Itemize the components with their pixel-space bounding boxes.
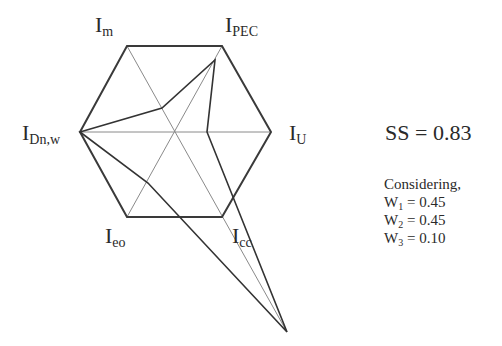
axis-label-ipec: IPEC (225, 14, 258, 36)
weight-w1: W1 = 0.45 (384, 193, 461, 211)
axis-label-icc: Icc (232, 225, 252, 247)
ss-result: SS = 0.83 (385, 120, 471, 146)
weight-w2: W2 = 0.45 (384, 211, 461, 229)
weight-w3: W3 = 0.10 (384, 229, 461, 247)
data-polygon (80, 60, 287, 332)
axis-im-icc (127, 46, 287, 332)
weights-block: Considering, W1 = 0.45 W2 = 0.45 W3 = 0.… (384, 175, 461, 247)
hexagon-radar-diagram (0, 0, 502, 346)
axis-label-ieo: Ieo (105, 225, 126, 247)
axis-label-idnw: IDn,w (22, 122, 60, 144)
considering-title: Considering, (384, 175, 461, 193)
axis-label-iu: IU (289, 122, 306, 144)
axis-label-im: Im (95, 14, 113, 36)
